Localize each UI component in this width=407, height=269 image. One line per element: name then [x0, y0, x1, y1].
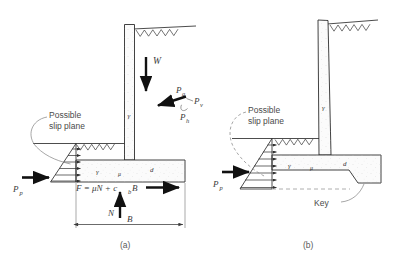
ground-line-left-b [232, 139, 319, 146]
slip-plane-label-line2-b: slip plane [248, 116, 284, 126]
ground-hatch-top-a [136, 29, 178, 36]
stem-gamma-label-b: γ [322, 104, 325, 112]
footing-mark-a: μ [118, 171, 121, 177]
footing-d-label-b: d [343, 160, 347, 168]
panel-a: γ γ μ d [12, 25, 203, 229]
weight-force-a: W [146, 56, 162, 91]
active-thrust-label-a: P [175, 85, 182, 95]
slip-plane-label-line1-a: Possible [49, 110, 81, 120]
active-thrust-a: P a P v P h [158, 85, 203, 124]
normal-force-a: N [107, 192, 120, 218]
friction-equation-tail-a: B [132, 183, 138, 193]
slip-plane-label-line1-b: Possible [248, 105, 280, 115]
passive-force-label-b: P [212, 179, 219, 189]
wall-stem-a: γ [125, 25, 135, 161]
slip-plane-label-line2-a: slip plane [49, 121, 85, 131]
panel-a-caption: (a) [120, 240, 130, 250]
footing-mark-b: μ [310, 165, 313, 171]
key-annotation-b: Key [314, 184, 364, 208]
footing-d-label-a: d [150, 166, 154, 174]
passive-force-sub-a: p [19, 189, 24, 196]
footing-slab-a: γ μ d [76, 160, 185, 182]
ground-surface-top-b [327, 20, 378, 31]
slip-plane-annotation-a: Possible slip plane [31, 110, 85, 164]
friction-equation-group-a: F = μN + c b B [75, 183, 179, 195]
weight-label-a: W [153, 56, 162, 66]
stem-gamma-label-a: γ [128, 112, 131, 120]
key-label-b: Key [314, 198, 329, 208]
footing-gamma-label-b: γ [288, 162, 291, 170]
vertical-component-label-a: P [193, 96, 200, 106]
ground-surface-top-a [133, 26, 196, 36]
friction-equation-a: F = μN + c [75, 183, 117, 193]
footing-gamma-label-a: γ [96, 168, 99, 176]
passive-pressure-diagram-a: P p [12, 144, 81, 197]
passive-pressure-diagram-b: P p [212, 139, 277, 192]
ground-hatch-left-a [77, 144, 115, 150]
panel-b-caption: (b) [303, 240, 313, 250]
ground-hatch-left-b [275, 139, 313, 145]
horizontal-component-label-a: P [179, 112, 186, 122]
retaining-wall-figure: γ γ μ d [0, 0, 407, 269]
normal-force-label-a: N [107, 208, 115, 218]
wall-stem-b: γ [318, 20, 331, 155]
passive-force-label-a: P [12, 184, 19, 194]
active-thrust-sub-a: a [182, 90, 185, 97]
ground-hatch-top-b [330, 24, 370, 31]
panel-b: γ γ μ d [212, 20, 381, 208]
vertical-component-sub-a: v [200, 101, 203, 108]
footing-slab-b: γ μ d [272, 155, 381, 183]
base-width-label-a: B [127, 214, 133, 224]
horizontal-component-sub-a: h [186, 117, 189, 124]
passive-pressure-arrows-b [241, 145, 277, 188]
passive-force-sub-b: p [219, 184, 224, 191]
